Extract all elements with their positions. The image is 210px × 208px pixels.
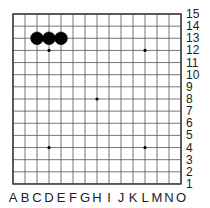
column-label-H: H [91, 191, 103, 204]
row-label-5: 5 [186, 129, 206, 141]
column-label-L: L [139, 191, 151, 204]
column-label-A: A [7, 191, 19, 204]
go-board[interactable] [0, 0, 210, 208]
column-label-I: I [103, 191, 115, 204]
star-point [47, 146, 50, 149]
row-label-11: 11 [186, 57, 206, 69]
stone-black-E13[interactable] [55, 32, 68, 45]
column-label-J: J [115, 191, 127, 204]
row-label-1: 1 [186, 178, 206, 190]
column-label-M: M [151, 191, 163, 204]
column-label-B: B [19, 191, 31, 204]
column-label-F: F [67, 191, 79, 204]
row-label-2: 2 [186, 166, 206, 178]
star-point [143, 146, 146, 149]
star-point [47, 49, 50, 52]
row-label-10: 10 [186, 69, 206, 81]
row-label-4: 4 [186, 142, 206, 154]
row-label-12: 12 [186, 44, 206, 56]
column-label-K: K [127, 191, 139, 204]
row-label-3: 3 [186, 154, 206, 166]
star-point [95, 97, 98, 100]
column-label-D: D [43, 191, 55, 204]
stone-black-D13[interactable] [43, 32, 56, 45]
star-point [143, 49, 146, 52]
column-label-G: G [79, 191, 91, 204]
column-label-C: C [31, 191, 43, 204]
column-label-N: N [163, 191, 175, 204]
stone-black-C13[interactable] [31, 32, 44, 45]
column-label-E: E [55, 191, 67, 204]
column-label-O: O [175, 191, 187, 204]
